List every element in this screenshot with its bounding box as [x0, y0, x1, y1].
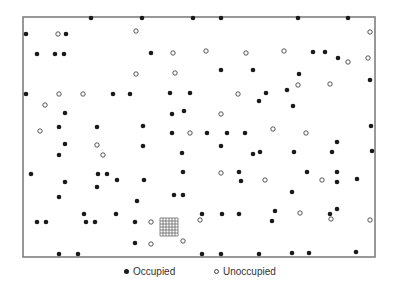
occupied-point	[273, 209, 278, 214]
occupied-point	[237, 212, 242, 217]
occupied-point	[243, 131, 248, 136]
unoccupied-point	[219, 171, 223, 175]
occupied-point	[29, 172, 34, 177]
unoccupied-point	[296, 83, 300, 87]
occupied-point	[95, 125, 100, 130]
occupied-point	[205, 131, 210, 136]
occupied-point	[182, 109, 187, 114]
occupied-point	[237, 170, 242, 175]
unoccupied-point	[149, 242, 153, 246]
occupied-point	[63, 180, 68, 185]
unoccupied-point	[282, 49, 286, 53]
unoccupied-point	[329, 217, 333, 221]
occupied-point	[335, 140, 340, 145]
occupied-point	[336, 56, 341, 61]
occupied-point	[191, 16, 196, 21]
sample-grid-square	[160, 218, 178, 236]
occupied-point	[200, 252, 205, 257]
occupied-point	[181, 170, 186, 175]
occupied-point	[111, 92, 116, 97]
unoccupied-points	[38, 29, 372, 246]
unoccupied-point	[56, 32, 60, 36]
occupied-point	[258, 150, 263, 155]
unoccupied-point	[298, 211, 302, 215]
occupied-point	[219, 16, 224, 21]
occupied-point	[370, 149, 375, 154]
occupied-point	[82, 212, 87, 217]
unoccupied-point	[188, 131, 192, 135]
occupied-point	[180, 151, 185, 156]
unoccupied-point	[366, 56, 370, 60]
occupied-point	[135, 199, 140, 204]
occupied-point	[291, 104, 296, 109]
unoccupied-point	[38, 129, 42, 133]
occupied-point	[76, 252, 81, 257]
occupied-point	[89, 16, 94, 21]
occupied-point	[149, 51, 154, 56]
legend-label-unoccupied: Unoccupied	[223, 266, 276, 277]
occupied-point	[285, 88, 290, 93]
unoccupied-point	[57, 92, 61, 96]
occupied-point	[346, 16, 351, 21]
occupied-point	[24, 32, 29, 37]
occupied-point	[290, 190, 295, 195]
occupied-point	[95, 185, 100, 190]
occupied-point	[368, 78, 373, 83]
occupied-point	[239, 179, 244, 184]
occupied-point	[257, 99, 262, 104]
occupied-point	[220, 212, 225, 217]
occupied-point	[53, 52, 58, 57]
filled-circle-icon	[124, 269, 129, 274]
occupied-point	[63, 142, 68, 147]
occupied-point	[335, 180, 340, 185]
occupied-point	[323, 50, 328, 55]
occupied-point	[311, 50, 316, 55]
occupied-point	[297, 72, 302, 77]
legend-label-occupied: Occupied	[133, 266, 175, 277]
occupied-point	[96, 172, 101, 177]
unoccupied-point	[346, 60, 350, 64]
occupied-point	[305, 170, 310, 175]
occupied-point	[141, 124, 146, 129]
unoccupied-point	[181, 239, 185, 243]
occupied-point	[142, 178, 147, 183]
unoccupied-point	[271, 127, 275, 131]
occupied-point	[200, 212, 205, 217]
occupied-point	[63, 111, 68, 116]
unoccupied-point	[204, 49, 208, 53]
occupied-point	[251, 152, 256, 157]
occupied-point	[128, 92, 133, 97]
occupied-point	[225, 131, 230, 136]
unoccupied-point	[236, 92, 240, 96]
occupied-point	[290, 251, 295, 256]
occupied-point	[270, 219, 275, 224]
occupied-point	[57, 153, 62, 158]
unoccupied-point	[134, 72, 138, 76]
occupied-point	[105, 172, 110, 177]
legend: Occupied Unoccupied	[0, 266, 396, 282]
scatter-plot	[0, 0, 396, 293]
unoccupied-point	[149, 220, 153, 224]
unoccupied-point	[263, 178, 267, 182]
occupied-point	[172, 193, 177, 198]
occupied-point	[133, 220, 138, 225]
legend-item-unoccupied: Unoccupied	[214, 266, 276, 277]
occupied-point	[93, 220, 98, 225]
unoccupied-point	[219, 112, 223, 116]
open-circle-icon	[214, 269, 219, 274]
occupied-point	[44, 220, 49, 225]
unoccupied-point	[198, 218, 202, 222]
occupied-point	[141, 144, 146, 149]
unoccupied-point	[368, 30, 372, 34]
occupied-point	[330, 150, 335, 155]
occupied-point	[35, 220, 40, 225]
occupied-point	[257, 252, 262, 257]
unoccupied-point	[328, 82, 332, 86]
unoccupied-point	[134, 29, 138, 33]
occupied-point	[219, 68, 224, 73]
occupied-point	[296, 16, 301, 21]
occupied-point	[114, 212, 119, 217]
occupied-point	[219, 252, 224, 257]
unoccupied-point	[320, 178, 324, 182]
unoccupied-point	[43, 103, 47, 107]
